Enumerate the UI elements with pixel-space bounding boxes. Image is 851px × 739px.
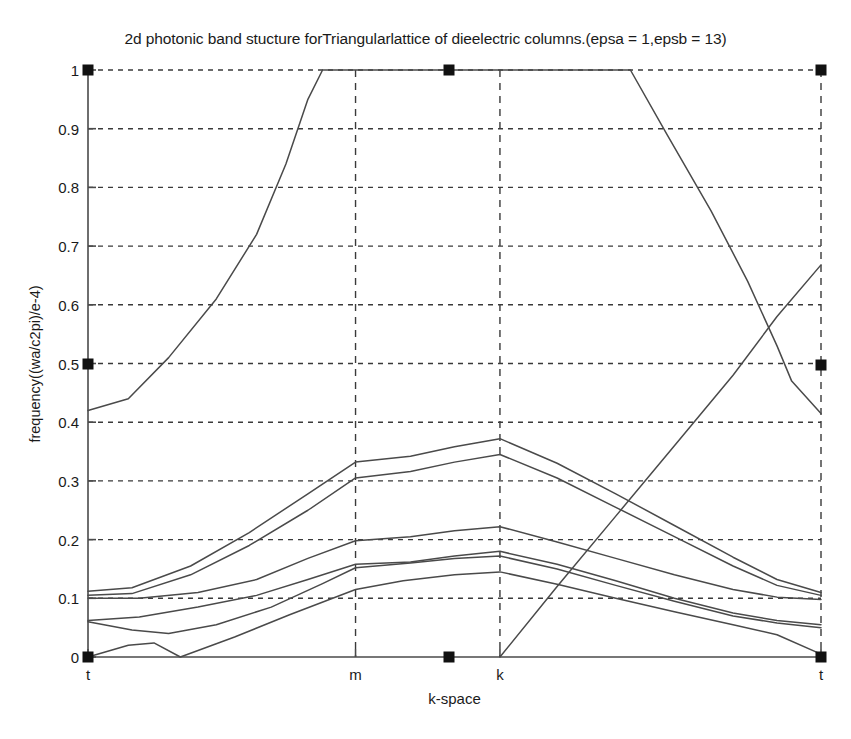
y-tick-label: 0.3: [58, 472, 79, 489]
y-tick-label: 0.7: [58, 238, 79, 255]
grid-lines: [88, 70, 821, 657]
y-tick-label: 0.4: [58, 414, 79, 431]
band-curve-band-7: [88, 70, 821, 413]
y-tick-label: 0.5: [58, 355, 79, 372]
marker-bottom-left: [83, 652, 94, 663]
y-tick-label: 0.8: [58, 179, 79, 196]
marker-bottom-mid: [443, 652, 454, 663]
y-tick-label: 0.1: [58, 590, 79, 607]
y-tick-label: 0.9: [58, 120, 79, 137]
plot-axes: 00.10.20.30.40.50.60.70.80.91 tmkt: [88, 70, 821, 657]
y-tick-label: 0.2: [58, 531, 79, 548]
band-structure-plot: [88, 70, 821, 657]
y-tick-label: 1: [71, 62, 79, 79]
band-curve-band-2: [88, 556, 821, 633]
y-tick-label: 0.6: [58, 296, 79, 313]
x-tick-label: t: [819, 666, 823, 683]
y-tick-label: 0: [71, 649, 79, 666]
marker-top-mid: [443, 65, 454, 76]
y-axis-label: frequency((wa/c2pi)/e-4): [24, 70, 46, 657]
x-tick-label: k: [496, 666, 504, 683]
plot-title: 2d photonic band stucture forTriangularl…: [0, 30, 851, 48]
x-axis-label: k-space: [88, 690, 821, 707]
marker-bottom-right: [816, 652, 827, 663]
marker-top-left: [83, 65, 94, 76]
marker-left-half: [83, 358, 94, 369]
y-axis-label-text: frequency((wa/c2pi)/e-4): [27, 285, 43, 442]
x-tick-label: m: [349, 666, 362, 683]
band-curve-band-4: [88, 527, 821, 600]
marker-top-right: [816, 65, 827, 76]
marker-right-half: [816, 360, 827, 371]
figure-canvas: 2d photonic band stucture forTriangularl…: [0, 0, 851, 739]
x-tick-label: t: [86, 666, 90, 683]
